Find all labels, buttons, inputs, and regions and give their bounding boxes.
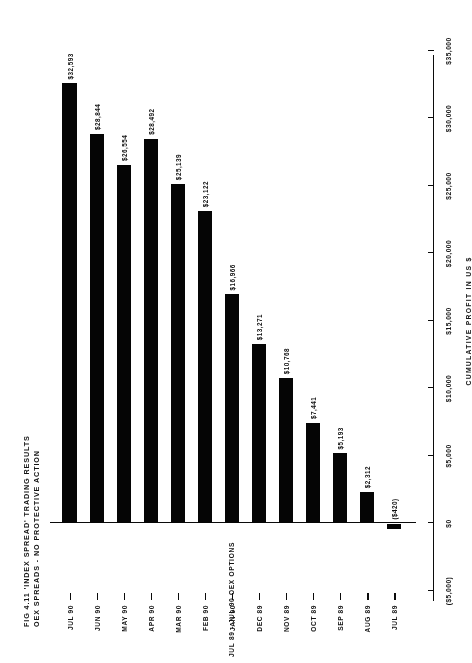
value-axis-tick — [428, 252, 434, 253]
bar — [144, 139, 158, 524]
category-axis-tick — [259, 593, 260, 600]
bar-row: $28,492APR 90 — [144, 51, 158, 591]
bar — [360, 492, 374, 523]
bar — [279, 378, 293, 523]
value-axis-tick — [428, 455, 434, 456]
category-axis-tick — [178, 593, 179, 600]
bar-value-label: $2,312 — [364, 466, 371, 488]
category-axis-label: JUL 90 — [66, 605, 73, 630]
bar-value-label: $28,844 — [93, 104, 100, 130]
category-axis-label: APR 90 — [147, 605, 154, 632]
bar — [198, 211, 212, 523]
category-axis-tick — [97, 593, 98, 600]
bar-row: $13,271DEC 89 — [252, 51, 266, 591]
bar-value-label: $28,492 — [147, 109, 154, 135]
value-axis-tick — [428, 185, 434, 186]
bar-row: $16,966JAN 90 — [225, 51, 239, 591]
bar — [90, 134, 104, 523]
category-axis-tick — [367, 593, 368, 600]
category-axis-tick — [151, 593, 152, 600]
value-axis-tick-label: $35,000 — [445, 37, 452, 64]
bar-row: $7,441OCT 89 — [306, 51, 320, 591]
bar — [171, 184, 185, 523]
figure-title-line-2: OEX SPREADS - NO PROTECTIVE ACTION — [32, 435, 42, 627]
category-axis-label: DEC 89 — [256, 605, 263, 632]
value-axis-tick-label: $15,000 — [445, 307, 452, 334]
bar-row: $25,139MAR 90 — [171, 51, 185, 591]
bar-value-label: $7,441 — [310, 397, 317, 419]
value-axis-tick — [428, 50, 434, 51]
bar-row: ($420)JUL 89 — [387, 51, 401, 591]
value-axis-tick — [428, 387, 434, 388]
bar-value-label: $32,593 — [66, 53, 73, 79]
bar-row: $2,312AUG 89 — [360, 51, 374, 591]
value-axis-tick — [428, 117, 434, 118]
bar-value-label: $10,768 — [283, 348, 290, 374]
bar — [306, 423, 320, 523]
bar — [62, 84, 76, 524]
x-axis-label: CUMULATIVE PROFIT IN US $ — [465, 51, 472, 591]
value-axis-tick-label: $25,000 — [445, 172, 452, 199]
category-axis-tick — [205, 593, 206, 600]
category-axis-label: FEB 90 — [201, 605, 208, 631]
value-axis-tick-label: $10,000 — [445, 375, 452, 402]
bar — [225, 294, 239, 523]
bar-row: $32,593JUL 90 — [62, 51, 76, 591]
bar-value-label: $25,139 — [174, 154, 181, 180]
bar-row: $10,768NOV 89 — [279, 51, 293, 591]
value-axis-tick-label: $20,000 — [445, 240, 452, 267]
figure-title: FIG 4.11 'INDEX SPREAD' TRADING RESULTS … — [22, 435, 43, 627]
category-axis-label: OCT 89 — [310, 605, 317, 632]
bar-value-label: ($420) — [391, 498, 398, 519]
category-axis-tick — [124, 593, 125, 600]
bar-value-label: $16,966 — [228, 264, 235, 290]
bar — [252, 344, 266, 523]
category-axis-label: AUG 89 — [364, 605, 371, 632]
bar — [387, 524, 401, 530]
figure-title-line-1: FIG 4.11 'INDEX SPREAD' TRADING RESULTS — [22, 435, 32, 627]
category-axis-label: NOV 89 — [283, 605, 290, 632]
bar — [333, 453, 347, 523]
category-axis-label: JUL 89 — [391, 605, 398, 630]
bar-value-label: $23,122 — [201, 181, 208, 207]
value-axis-tick-label: ($5,000) — [445, 577, 452, 606]
value-axis-tick-label: $0 — [445, 519, 452, 527]
category-axis-label: SEP 89 — [337, 605, 344, 631]
category-axis-label: MAY 90 — [120, 605, 127, 632]
category-axis-label: JUN 90 — [93, 605, 100, 631]
value-axis-tick — [428, 522, 434, 523]
bar-row: $28,844JUN 90 — [90, 51, 104, 591]
category-axis-tick — [340, 593, 341, 600]
bar-value-label: $26,554 — [120, 135, 127, 161]
period-caption: JUL 89 - JUL 90 OEX OPTIONS — [228, 542, 235, 657]
category-axis-tick — [286, 593, 287, 600]
bar-value-label: $13,271 — [256, 314, 263, 340]
category-axis-tick — [394, 593, 395, 600]
value-axis-tick — [428, 590, 434, 591]
value-axis-line — [433, 55, 434, 601]
value-axis-tick-label: $30,000 — [445, 105, 452, 132]
category-axis-tick — [70, 593, 71, 600]
bar-value-label: $5,193 — [337, 427, 344, 449]
bar — [117, 165, 131, 523]
category-axis-tick — [313, 593, 314, 600]
value-axis-tick — [428, 320, 434, 321]
category-axis-label: MAR 90 — [174, 605, 181, 633]
bar-row: $26,554MAY 90 — [117, 51, 131, 591]
bar-row: $5,193SEP 89 — [333, 51, 347, 591]
chart-plot-area: ($5,000)$0$5,000$10,000$15,000$20,000$25… — [56, 51, 408, 591]
value-axis-tick-label: $5,000 — [445, 444, 452, 467]
bar-row: $23,122FEB 90 — [198, 51, 212, 591]
